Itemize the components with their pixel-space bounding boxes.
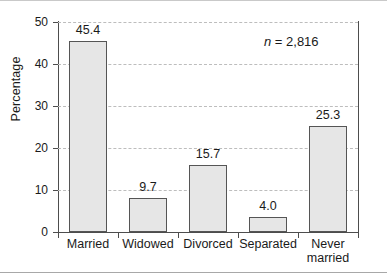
bar-value-label: 45.4: [58, 24, 118, 37]
x-category-label-line: Widowed: [114, 237, 182, 251]
bar: [189, 165, 227, 232]
figure-bottom-rule: [0, 272, 387, 273]
x-category-label-line: Married: [54, 237, 122, 251]
bar: [69, 41, 107, 232]
sample-size-value: = 2,816: [271, 34, 318, 49]
gridline-50: [58, 22, 358, 23]
y-axis-title: Percentage: [9, 29, 23, 149]
bar-value-label: 4.0: [238, 200, 298, 213]
x-category-label-line: married: [294, 251, 362, 265]
bar-value-label: 25.3: [298, 109, 358, 122]
x-category-label-line: Divorced: [174, 237, 242, 251]
y-tick-label-30: 30: [22, 100, 48, 112]
x-category-label: Widowed: [114, 237, 182, 251]
bar: [249, 217, 287, 232]
x-category-label: Separated: [234, 237, 302, 251]
bar: [309, 126, 347, 232]
x-category-label: Married: [54, 237, 122, 251]
figure-top-rule: [0, 0, 387, 1]
x-category-label: Nevermarried: [294, 237, 362, 265]
bar-chart-figure: Percentage 01020304050 45.49.715.74.025.…: [0, 0, 387, 280]
y-tick-label-40: 40: [22, 58, 48, 70]
y-tick-label-10: 10: [22, 184, 48, 196]
x-axis-line: [58, 232, 359, 233]
bar: [129, 198, 167, 232]
x-category-label-line: Separated: [234, 237, 302, 251]
sample-size-annotation: n = 2,816: [264, 34, 319, 49]
bar-value-label: 9.7: [118, 181, 178, 194]
y-tick-label-50: 50: [22, 16, 48, 28]
x-category-label-line: Never: [294, 237, 362, 251]
plot-area: [58, 22, 358, 232]
bar-value-label: 15.7: [178, 148, 238, 161]
right-axis-line: [358, 21, 359, 233]
y-tick-label-20: 20: [22, 142, 48, 154]
y-tick-label-0: 0: [22, 226, 48, 238]
x-category-label: Divorced: [174, 237, 242, 251]
